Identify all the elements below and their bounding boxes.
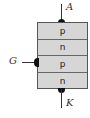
layer-n-bottom: n <box>38 73 87 90</box>
gate-label: G <box>9 55 17 66</box>
layer-n-upper: n <box>38 40 87 57</box>
layer-p-top: p <box>38 23 87 40</box>
anode-label: A <box>66 1 73 12</box>
cathode-lead <box>61 89 62 108</box>
gate-contact <box>34 58 39 67</box>
layer-stack: p n p n <box>37 22 88 89</box>
layer-p-lower: p <box>38 56 87 73</box>
cathode-label: K <box>66 97 73 108</box>
